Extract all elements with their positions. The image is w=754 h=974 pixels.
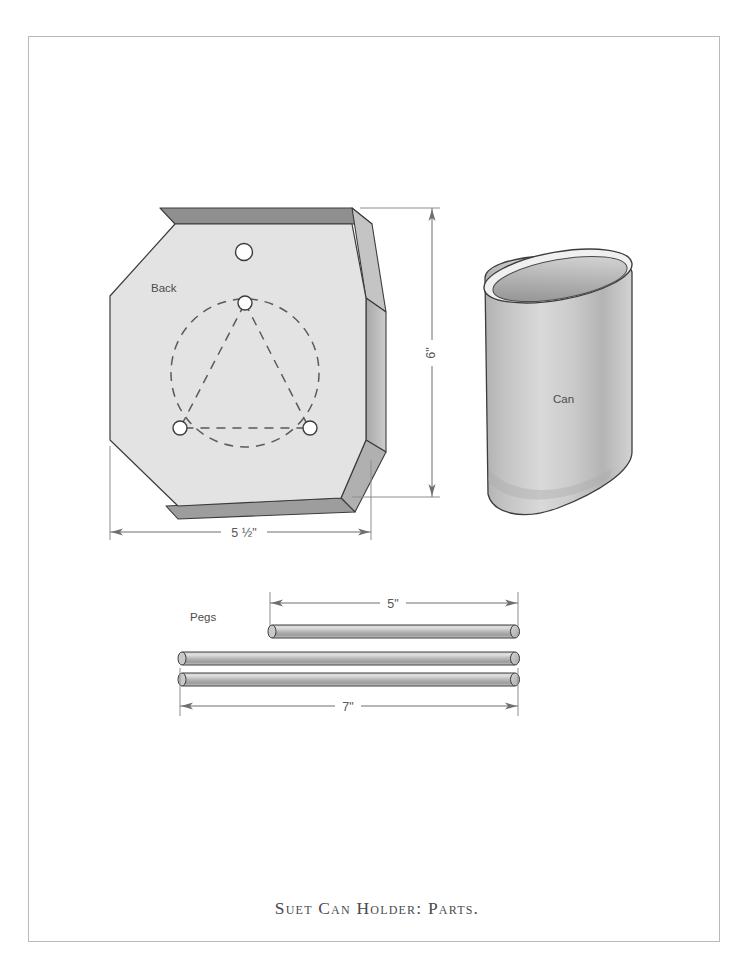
- parts-diagram: Back 6" 5 ½": [0, 0, 754, 974]
- can-label: Can: [553, 393, 574, 405]
- peg-long-lower-cap-left: [178, 673, 186, 686]
- peg-long-upper-cap-left: [178, 652, 186, 665]
- peg-hole-bottom-right: [303, 421, 317, 435]
- dim-peg7-label: 7": [342, 700, 353, 714]
- back-label: Back: [151, 282, 177, 294]
- peg-hole-bottom-left: [173, 421, 187, 435]
- peg-short-cap-left: [268, 625, 276, 638]
- hanging-hole: [236, 244, 253, 261]
- back-panel-right-edge: [366, 298, 386, 452]
- back-panel-top-edge: [160, 208, 372, 224]
- part-back-panel: Back: [110, 208, 386, 519]
- peg-short: [268, 625, 520, 638]
- peg-long-upper-body: [182, 652, 515, 665]
- peg-short-cap-right: [511, 625, 520, 638]
- page-canvas: Back 6" 5 ½": [0, 0, 754, 974]
- part-can: Can: [480, 239, 636, 514]
- dimension-peg-short-5in: 5": [270, 592, 518, 628]
- peg-long-upper-cap-right: [511, 652, 520, 665]
- peg-hole-top: [238, 296, 252, 310]
- dim-peg5-label: 5": [387, 597, 398, 611]
- peg-short-body: [272, 625, 515, 638]
- peg-long-lower-body: [182, 673, 515, 686]
- peg-long-upper: [178, 652, 520, 665]
- peg-long-lower: [178, 673, 520, 686]
- pegs-label: Pegs: [190, 611, 216, 623]
- dim-width-label: 5 ½": [231, 526, 256, 540]
- back-panel-face: [110, 224, 366, 506]
- part-pegs: Pegs 5": [178, 592, 520, 716]
- dim-height-label: 6": [424, 347, 438, 358]
- figure-caption: Suet Can Holder: Parts.: [0, 898, 754, 919]
